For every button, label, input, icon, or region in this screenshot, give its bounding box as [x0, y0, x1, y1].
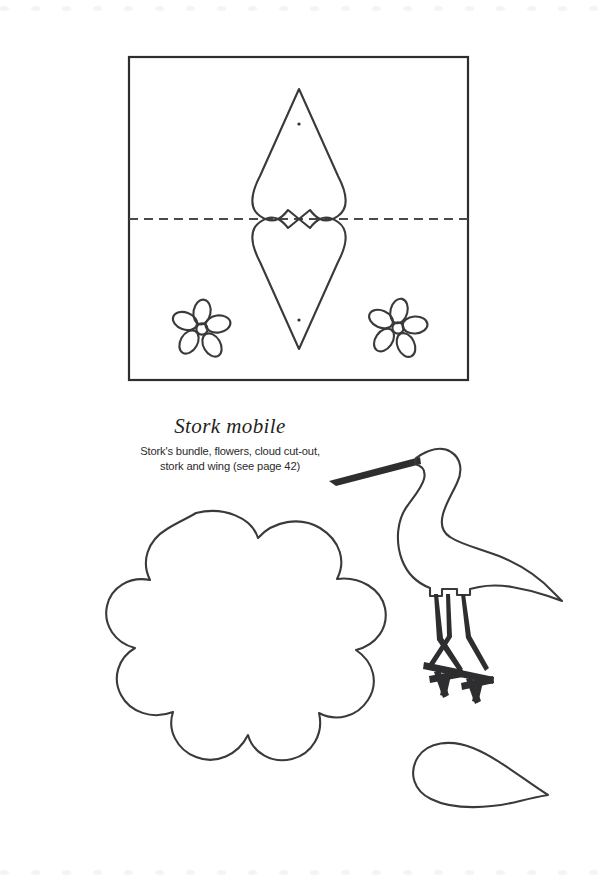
petal [388, 297, 411, 325]
craft-template-page: Stork mobile Stork's bundle, flowers, cl… [0, 0, 606, 880]
subtitle-line-2: stork and wing (see page 42) [0, 459, 460, 474]
subtitle-line-1: Stork's bundle, flowers, cloud cut-out, [0, 444, 460, 459]
page-title: Stork mobile [0, 415, 460, 438]
title-block: Stork mobile Stork's bundle, flowers, cl… [0, 415, 460, 474]
cloud-cutout [106, 511, 385, 760]
flower-right-petals [366, 297, 428, 360]
stork-leg-right [461, 594, 489, 671]
bundle-outline [252, 89, 346, 349]
bundle-punch-hole-bottom [297, 318, 300, 321]
cloud-outline [106, 511, 385, 760]
flower-left-petals [170, 298, 231, 360]
petal [402, 316, 428, 335]
stork-foot-right [455, 669, 494, 704]
wing-cutout [413, 743, 548, 807]
flower-left [170, 298, 231, 360]
wing-outline [413, 743, 548, 807]
petal [175, 327, 202, 357]
bundle-punch-hole-top [297, 122, 300, 125]
page-subtitle: Stork's bundle, flowers, cloud cut-out, … [0, 444, 460, 474]
stork-figure [329, 449, 562, 704]
petal [370, 325, 398, 355]
petal [191, 298, 212, 326]
bundle-shape [252, 89, 346, 349]
flower-right [366, 297, 428, 360]
